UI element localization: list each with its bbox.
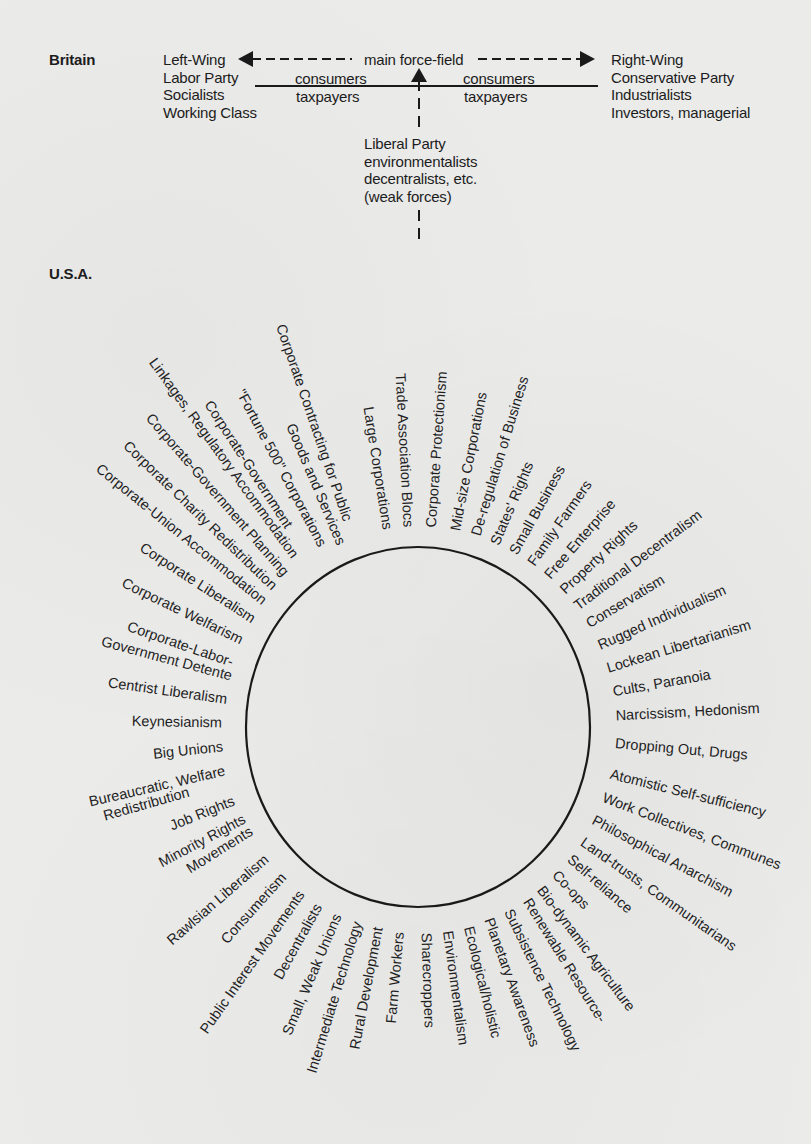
radial-label: Cults, Paranoia (611, 666, 712, 699)
radial-label: Trade Association Blocs (393, 373, 417, 528)
usa-radial-diagram: Trade Association BlocsLarge Corporation… (0, 0, 811, 1144)
radial-label: Corporate Protectionism (423, 371, 450, 528)
radial-label: Dropping Out, Drugs (615, 735, 749, 763)
central-circle (246, 547, 590, 907)
radial-label: Farm Workers (383, 931, 407, 1024)
radial-label: Centrist Liberalism (107, 674, 228, 707)
radial-labels: Trade Association BlocsLarge Corporation… (87, 322, 783, 1075)
radial-label: Sharecroppers (418, 933, 437, 1029)
radial-label: Big Unions (152, 738, 223, 761)
radial-label: Narcissism, Hedonism (615, 700, 760, 724)
radial-label: Keynesianism (132, 713, 223, 731)
radial-label: Large Corporations (361, 405, 396, 530)
